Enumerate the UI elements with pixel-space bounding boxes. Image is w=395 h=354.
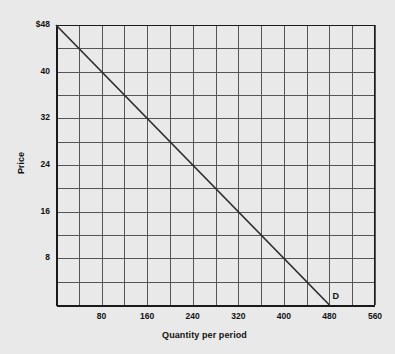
x-tick-label: 80: [82, 311, 122, 321]
x-axis-title: Quantity per period: [0, 330, 395, 340]
x-tick-label: 240: [173, 311, 213, 321]
x-tick-label: 160: [127, 311, 167, 321]
y-tick-label: 40: [41, 66, 50, 76]
y-tick-label: 32: [41, 112, 50, 122]
demand-curve-chart: Price Quantity per period 816243240$48 8…: [0, 0, 395, 354]
x-tick-label: 560: [355, 311, 395, 321]
x-tick-label: 400: [264, 311, 304, 321]
y-axis-title: Price: [16, 128, 26, 198]
y-tick-label: $48: [36, 19, 50, 29]
series-label-d: D: [332, 291, 339, 301]
y-tick-label: 24: [41, 159, 50, 169]
y-tick-label: 16: [41, 206, 50, 216]
grid-lines: [56, 25, 376, 306]
x-tick-label: 480: [309, 311, 349, 321]
y-tick-label: 8: [45, 252, 50, 262]
x-tick-label: 320: [218, 311, 258, 321]
y-axis-title-wrapper: Price: [12, 120, 26, 210]
